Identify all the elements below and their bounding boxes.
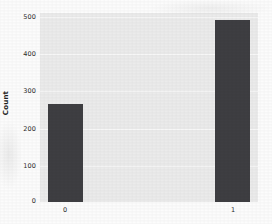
- y-tick-label-0: 0: [4, 198, 36, 205]
- bar-category-0[interactable]: [48, 104, 83, 202]
- y-tick-label-500: 500: [4, 14, 36, 21]
- scan-smudge-top: [150, 0, 270, 14]
- y-tick-label-200: 200: [4, 126, 36, 133]
- plot-area: [40, 13, 258, 202]
- bar-category-1[interactable]: [215, 20, 250, 202]
- y-axis-tick-labels: 500 400 300 200 100 0: [0, 0, 36, 224]
- y-tick-label-300: 300: [4, 88, 36, 95]
- x-tick-label-0: 0: [55, 206, 75, 214]
- bar-chart-figure: Count 500 400 300 200 100 0 0 1: [0, 0, 272, 224]
- gridline-500: [40, 17, 258, 18]
- y-tick-label-100: 100: [4, 163, 36, 170]
- x-tick-label-1: 1: [223, 206, 243, 214]
- y-tick-label-400: 400: [4, 51, 36, 58]
